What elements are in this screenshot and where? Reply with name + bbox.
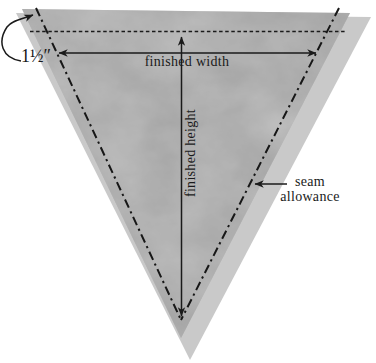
finished-width-label: finished width bbox=[107, 55, 267, 69]
seam-allowance-label: seam allowance bbox=[274, 175, 346, 204]
pattern-diagram: finished width finished height seam allo… bbox=[0, 0, 376, 363]
finished-height-label: finished height bbox=[183, 93, 199, 214]
top-allowance-label: 1½″ bbox=[21, 47, 51, 66]
